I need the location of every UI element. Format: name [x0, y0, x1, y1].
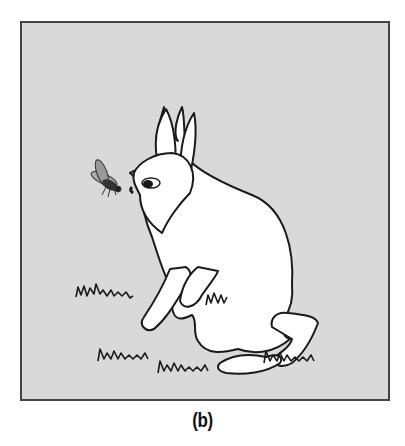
rabbit-and-fly-illustration [22, 23, 388, 399]
figure-caption: (b) [30, 409, 374, 432]
illustration-frame [20, 21, 390, 401]
